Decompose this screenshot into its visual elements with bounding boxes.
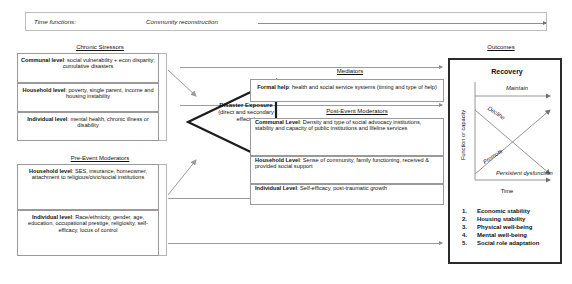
post-event-household-lead: Household Level [255, 157, 300, 163]
post-event-communal-text: Communal Level: Density and type of soci… [251, 119, 443, 132]
outcomes-list: 1. Economic stability 2. Housing stabili… [458, 208, 564, 248]
recovery-label-maintain: Maintain [506, 85, 528, 91]
outcome-label-5: Social role adaptation [477, 240, 564, 248]
mediator-formal-help-detail: : health and social service systems (tim… [289, 84, 437, 90]
list-item: 2. Housing stability [458, 216, 564, 224]
mediator-formal-help-lead: Formal help [257, 84, 289, 90]
post-event-moderators-title: Post-Event Moderators [290, 108, 424, 114]
mediator-formal-help-box: Formal help: health and social service s… [250, 79, 444, 102]
post-event-individual-text: Individual Level: Self-efficacy, post-tr… [251, 185, 443, 191]
mediators-title: Mediators [290, 68, 410, 74]
outcome-number-4: 4. [458, 232, 477, 240]
recovery-chart-xlabel: Time [450, 188, 564, 194]
outcome-number-2: 2. [458, 216, 477, 224]
outcomes-panel: Recovery Function or capacity Maintain D… [448, 58, 562, 264]
mediator-formal-help-text: Formal help: health and social service s… [251, 84, 443, 90]
outcome-label-3: Physical well-being [477, 224, 564, 232]
post-event-communal-box: Communal Level: Density and type of soci… [250, 118, 444, 156]
outcome-number-1: 1. [458, 208, 477, 216]
bottom-flow-arrow [168, 243, 442, 244]
post-event-communal-lead: Communal Level [255, 119, 300, 125]
post-event-household-text: Household Level: Sense of community, fam… [251, 157, 443, 170]
recovery-chart-ylabel: Function or capacity [460, 100, 466, 170]
list-item: 5. Social role adaptation [458, 240, 564, 248]
recovery-chart-title: Recovery [450, 68, 564, 75]
outcome-label-1: Economic stability [477, 208, 564, 216]
post-event-individual-lead: Individual Level [255, 185, 297, 191]
post-event-individual-detail: : Self-efficacy, post-traumatic growth [297, 185, 387, 191]
outcome-label-4: Mental well-being [477, 232, 564, 240]
recovery-label-persistent-dysfunction: Persistent dysfunction [496, 170, 553, 176]
recovery-chart-plot [472, 80, 558, 184]
outcome-number-5: 5. [458, 240, 477, 248]
disaster-exposure-title: Disaster Exposure [219, 101, 273, 108]
list-item: 3. Physical well-being [458, 224, 564, 232]
diagram-canvas: Time functions: Community reconstruction… [0, 0, 572, 284]
list-item: 1. Economic stability [458, 208, 564, 216]
post-event-household-box: Household Level: Sense of community, fam… [250, 156, 444, 184]
outcome-number-3: 3. [458, 224, 477, 232]
outcome-label-2: Housing stability [477, 216, 564, 224]
list-item: 4. Mental well-being [458, 232, 564, 240]
post-event-individual-box: Individual Level: Self-efficacy, post-tr… [250, 184, 444, 205]
outcomes-title: Outcomes [466, 44, 536, 50]
